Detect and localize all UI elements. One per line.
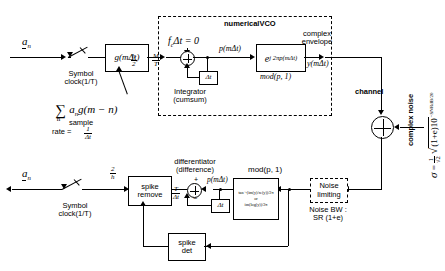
gain-tdt-num: T xyxy=(172,186,180,193)
switch-pole-arrow-tx xyxy=(67,52,73,57)
sigma-fraction: 1 √2 xyxy=(428,156,443,163)
gain-2h-den: h xyxy=(110,173,116,181)
gain-h-over-2: h 2 xyxy=(131,53,137,69)
input-a: a xyxy=(22,35,28,47)
pulse-shaping-block[interactable]: g(mΔt) xyxy=(105,44,149,72)
mod-block-title: mod(p, 1) xyxy=(248,166,282,175)
input-wire xyxy=(10,57,62,58)
envelope-signal-label: y(mΔt) xyxy=(307,60,329,69)
phase-signal-arrow xyxy=(250,54,255,60)
carrier-offset-rest: Δt = 0 xyxy=(174,35,199,46)
sigma-formula: σ = 1 √2 √(1+e)10−SNRdB/20 xyxy=(427,93,442,179)
gain-tdt-den: Δt xyxy=(172,193,180,201)
input-arrowhead xyxy=(61,54,66,60)
output-a: a xyxy=(22,167,28,179)
integrator-line2: (cumsum) xyxy=(173,95,206,104)
sample-rate-line2: rate = xyxy=(52,127,71,136)
integrator-out-wire xyxy=(193,57,251,58)
sum-formula: ∑nang(m − n) xyxy=(55,100,117,119)
noiselimit-to-mod-wire xyxy=(281,189,310,190)
carrier-offset-label: fcΔt = 0 xyxy=(168,36,199,49)
differentiator-line2: (difference) xyxy=(176,165,214,174)
noise-limiting-block[interactable]: Noise limiting xyxy=(310,178,348,203)
switch-right-wire-tx xyxy=(88,57,105,58)
output-a-sub: n xyxy=(28,174,31,181)
noise-limiting-line2: limiting xyxy=(317,190,340,199)
sample-rate-eq: rate = xyxy=(52,128,71,136)
spike-remove-line2: remove xyxy=(137,190,162,199)
channel-adder xyxy=(371,116,394,139)
sample-rate-fraction: 1 Δt xyxy=(84,126,92,142)
gain-2-over-h: 2 h xyxy=(110,166,116,182)
input-a-sub: n xyxy=(28,42,31,49)
diff-plus-sign: + xyxy=(194,176,198,184)
integrator-fb-down xyxy=(207,57,208,71)
spikedet-in-wire xyxy=(204,246,288,247)
diff-delay-left xyxy=(187,205,211,206)
complex-envelope-label: complex envelope xyxy=(292,30,342,46)
diff-input-signal-label: p(mΔt) xyxy=(207,176,228,184)
exp-out-wire xyxy=(304,57,320,58)
spikedet-in-arrow xyxy=(206,243,211,249)
arg-formula-line1: tan⁻¹(im(y)/re(y))/2π xyxy=(238,190,273,195)
output-wire xyxy=(12,189,62,190)
integrator-fb-arrow xyxy=(184,63,190,68)
sum-formula-pointer xyxy=(118,70,128,95)
input-signal-label: an xyxy=(22,36,31,50)
sigma-symbol: σ xyxy=(427,173,439,178)
noise-in-arrow xyxy=(394,124,399,130)
gain-t-over-dt: T Δt xyxy=(172,186,180,202)
arg-formula-line2: im(log(y))/2π xyxy=(245,202,268,207)
output-arrowhead xyxy=(6,186,11,192)
arg-formula-or: or xyxy=(254,196,258,201)
sigma-frac-den: √2 xyxy=(434,156,442,163)
channel-label: channel xyxy=(355,88,383,96)
noise-line2: noise xyxy=(406,94,415,114)
mod-out-wire xyxy=(213,189,233,190)
gain-h2-num: h xyxy=(131,53,137,60)
symbol-clock-line2: clock(1/T) xyxy=(65,77,98,86)
phase-extraction-block[interactable]: tan⁻¹(im(y)/re(y))/2π or im(log(y))/2π xyxy=(233,178,279,220)
output-signal-label: an xyxy=(22,168,31,182)
complex-noise-label: complex noise xyxy=(406,94,415,146)
spikedet-out-wire xyxy=(143,246,168,247)
complex-exponential-block[interactable]: ej 2πp(mΔt) xyxy=(256,44,306,72)
channel-to-receiver-wire xyxy=(381,137,382,189)
channel-down-wire xyxy=(381,57,382,111)
exp-mod-label: mod(p, 1) xyxy=(260,73,291,82)
sigma-frac-num: 1 xyxy=(428,156,435,163)
switch-right-wire-rx xyxy=(82,189,102,190)
noise-bw-label: Noise BW : SR (1+e) xyxy=(306,206,350,222)
integrator-fb-left xyxy=(187,77,199,78)
diff-adder-in-arrow xyxy=(201,186,206,192)
channel-arrow xyxy=(378,110,384,115)
integrator-delay-block[interactable]: Δt xyxy=(199,71,218,85)
integrator-label: Integrator (cumsum) xyxy=(164,88,216,104)
gain-h2-den: 2 xyxy=(131,60,137,68)
phase-signal-label: p(mΔt) xyxy=(219,45,241,54)
block-diagram-canvas: an Symbol clock(1/T) g(mΔt) ∑nang(m − n)… xyxy=(0,0,445,271)
sum-formula-pointer-arrow xyxy=(116,66,122,71)
noise-line1: complex xyxy=(406,116,415,146)
sigma-exponent: −SNRdB/20 xyxy=(429,93,434,118)
gain-2h-num: 2 xyxy=(110,166,116,173)
spike-remove-block[interactable]: spike remove xyxy=(128,176,172,206)
symbol-clock-rx-line2: clock(1/T) xyxy=(59,209,92,218)
diff-minus-sign: − xyxy=(193,195,197,203)
noise-bw-line2: SR (1+e) xyxy=(313,213,343,222)
differentiator-delay-block[interactable]: Δt xyxy=(211,199,230,213)
numerical-vco-title: numericalVCO xyxy=(224,20,276,28)
switch-left-stub-tx xyxy=(68,57,71,58)
differentiator-title: differentiator (difference) xyxy=(155,158,235,174)
spike-det-block[interactable]: spike det xyxy=(168,233,206,261)
sample-rate-label: sample xyxy=(58,119,104,127)
spikeremove-out-arrow xyxy=(124,186,129,192)
diff-delay-arrow xyxy=(184,193,190,198)
spikedet-out-arrow xyxy=(140,201,146,206)
symbol-clock-label-rx: Symbol clock(1/T) xyxy=(50,202,100,218)
sum-rest: g(m − n) xyxy=(78,103,117,115)
symbol-clock-label-tx: Symbol clock(1/T) xyxy=(56,70,106,86)
spikedet-tap-wire xyxy=(288,189,289,246)
sigma-sqrt-body: (1+e)10 xyxy=(428,117,439,148)
spike-det-line2: det xyxy=(182,246,192,255)
